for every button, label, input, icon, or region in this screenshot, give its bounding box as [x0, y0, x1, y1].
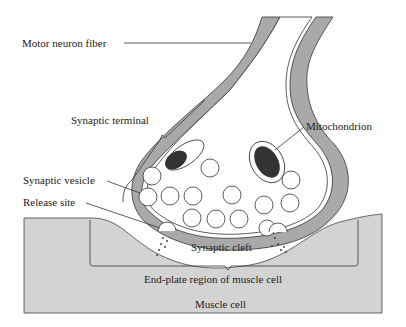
neuromuscular-junction-diagram: Motor neuron fiber Synaptic terminal Mit…: [0, 0, 406, 327]
label-motor-neuron-fiber: Motor neuron fiber: [22, 37, 107, 49]
label-synaptic-vesicle: Synaptic vesicle: [23, 174, 95, 186]
label-synaptic-terminal: Synaptic terminal: [71, 114, 149, 126]
label-synaptic-cleft: Synaptic cleft: [191, 241, 252, 253]
label-end-plate-region: End-plate region of muscle cell: [144, 273, 282, 285]
label-mitochondrion: Mitochondrion: [306, 120, 372, 132]
label-muscle-cell: Muscle cell: [195, 298, 246, 310]
label-release-site: Release site: [23, 196, 75, 208]
